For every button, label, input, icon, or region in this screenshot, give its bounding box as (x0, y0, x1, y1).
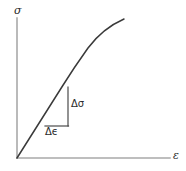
stress-strain-figure: σ ε Δσ Δϵ (0, 0, 186, 171)
stress-strain-curve (17, 19, 124, 158)
y-axis-label-sigma: σ (14, 5, 22, 16)
delta-epsilon-label: Δϵ (45, 127, 58, 137)
delta-sigma-label: Δσ (71, 99, 84, 109)
x-axis-label-epsilon: ε (173, 150, 179, 161)
figure-canvas (0, 0, 186, 171)
